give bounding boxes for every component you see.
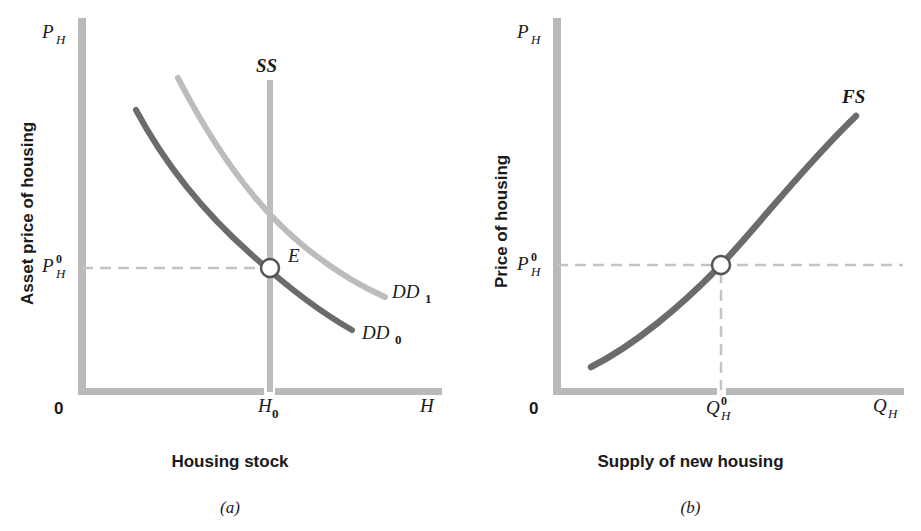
panel-a-y-axis-symbol: P (41, 21, 54, 42)
panel-b-price-level-subscript: H (530, 264, 541, 279)
panel-a-plot: SS E DD 1 DD 0 P H P H 0 0 H 0 H (0, 0, 460, 440)
panel-a-curve-dd1 (178, 78, 385, 297)
panel-a-caption: (a) (0, 498, 460, 518)
panel-b-x-axis-title: Supply of new housing (460, 452, 921, 472)
panel-b-quantity-superscript: 0 (721, 394, 727, 408)
panel-b-curve-fs (591, 116, 856, 367)
panel-b-caption: (b) (460, 498, 921, 518)
panel-a: SS E DD 1 DD 0 P H P H 0 0 H 0 H Asse (0, 0, 460, 531)
panel-b-price-level-symbol: P (516, 253, 529, 274)
panel-a-equilibrium-marker (261, 259, 279, 277)
panel-a-y-axis-symbol-subscript: H (55, 32, 66, 47)
panel-b-plot: FS P H P H 0 0 Q H 0 Q H (460, 0, 921, 440)
panel-b: FS P H P H 0 0 Q H 0 Q H Price of housin… (460, 0, 921, 531)
panel-a-label-dd0: DD (361, 322, 390, 343)
panel-a-x-axis-right (275, 388, 442, 395)
panel-b-quantity-symbol: Q (706, 397, 720, 418)
panel-a-curve-dd0 (136, 110, 352, 330)
panel-a-label-dd0-subscript: 0 (395, 332, 402, 347)
figure-root: SS E DD 1 DD 0 P H P H 0 0 H 0 H Asse (0, 0, 921, 531)
panel-a-x-axis-title: Housing stock (0, 452, 460, 472)
panel-b-x-axis-right (726, 388, 904, 395)
panel-b-y-axis-title: Price of housing (492, 155, 512, 288)
panel-a-y-axis (78, 18, 86, 394)
panel-a-origin-label: 0 (54, 399, 63, 418)
panel-b-y-axis-symbol: P (516, 21, 529, 42)
panel-b-x-axis-symbol: Q (873, 395, 887, 416)
panel-b-y-axis-symbol-subscript: H (530, 32, 541, 47)
panel-a-price-level-symbol: P (41, 255, 54, 276)
panel-a-quantity-subscript: 0 (272, 406, 279, 421)
panel-a-y-axis-title: Asset price of housing (18, 122, 38, 305)
panel-a-label-dd1-subscript: 1 (425, 291, 432, 306)
panel-b-equilibrium-marker (712, 256, 730, 274)
panel-b-label-fs: FS (841, 86, 865, 107)
panel-b-y-axis (553, 18, 561, 394)
panel-a-price-level-superscript: 0 (56, 252, 62, 266)
panel-b-price-level-superscript: 0 (531, 250, 537, 264)
panel-b-quantity-subscript: H (720, 408, 731, 423)
panel-a-price-level-subscript: H (55, 266, 66, 281)
panel-b-x-axis-left (553, 388, 717, 395)
panel-a-label-ss: SS (256, 55, 277, 76)
panel-a-label-equilibrium: E (287, 245, 300, 266)
panel-b-origin-label: 0 (529, 399, 538, 418)
panel-a-quantity-symbol: H (257, 395, 273, 416)
panel-a-x-axis-left (78, 388, 264, 395)
panel-b-x-axis-symbol-subscript: H (887, 406, 898, 421)
panel-a-label-dd1: DD (391, 281, 420, 302)
panel-a-x-axis-symbol: H (419, 395, 435, 416)
